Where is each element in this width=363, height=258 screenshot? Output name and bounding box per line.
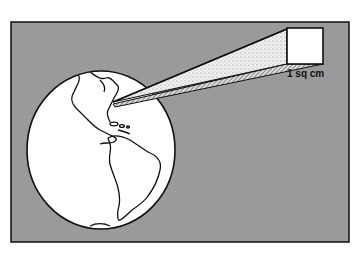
square-label: 1 sq cm <box>287 68 324 79</box>
diagram-svg <box>0 0 363 258</box>
diagram-figure: 1 sq cm <box>0 0 363 258</box>
square-centimeter <box>287 28 323 64</box>
